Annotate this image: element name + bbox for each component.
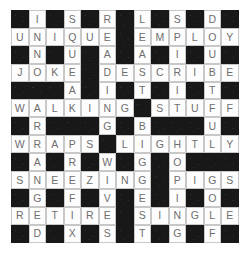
crossword-letter-cell[interactable]: U bbox=[11, 28, 29, 46]
crossword-letter-cell[interactable]: R bbox=[11, 207, 29, 225]
crossword-letter-cell[interactable]: I bbox=[151, 207, 169, 225]
crossword-letter-cell[interactable]: U bbox=[204, 46, 222, 64]
crossword-letter-cell[interactable]: W bbox=[11, 135, 29, 153]
crossword-letter-cell[interactable]: T bbox=[134, 82, 152, 100]
crossword-letter-cell[interactable]: F bbox=[221, 99, 239, 117]
crossword-letter-cell[interactable]: I bbox=[134, 135, 152, 153]
crossword-letter-cell[interactable]: T bbox=[46, 207, 64, 225]
crossword-letter-cell[interactable]: R bbox=[29, 117, 47, 135]
crossword-letter-cell[interactable]: I bbox=[169, 46, 187, 64]
crossword-letter-cell[interactable]: F bbox=[204, 99, 222, 117]
crossword-letter-cell[interactable]: O bbox=[29, 64, 47, 82]
crossword-letter-cell[interactable]: A bbox=[64, 82, 82, 100]
crossword-letter-cell[interactable]: Y bbox=[221, 135, 239, 153]
crossword-letter-cell[interactable]: I bbox=[99, 82, 117, 100]
crossword-letter-cell[interactable]: T bbox=[134, 225, 152, 243]
crossword-letter-cell[interactable]: G bbox=[169, 225, 187, 243]
crossword-letter-cell[interactable]: N bbox=[169, 207, 187, 225]
crossword-letter-cell[interactable]: I bbox=[186, 64, 204, 82]
crossword-letter-cell[interactable]: L bbox=[186, 28, 204, 46]
crossword-letter-cell[interactable]: U bbox=[186, 99, 204, 117]
crossword-letter-cell[interactable]: G bbox=[134, 171, 152, 189]
crossword-letter-cell[interactable]: U bbox=[204, 117, 222, 135]
crossword-letter-cell[interactable]: O bbox=[204, 189, 222, 207]
crossword-letter-cell[interactable]: S bbox=[151, 99, 169, 117]
crossword-letter-cell[interactable]: I bbox=[81, 99, 99, 117]
crossword-letter-cell[interactable]: Z bbox=[81, 171, 99, 189]
crossword-letter-cell[interactable]: S bbox=[221, 171, 239, 189]
crossword-letter-cell[interactable]: P bbox=[64, 135, 82, 153]
crossword-letter-cell[interactable]: U bbox=[64, 46, 82, 64]
crossword-letter-cell[interactable]: N bbox=[99, 99, 117, 117]
crossword-letter-cell[interactable]: G bbox=[151, 135, 169, 153]
crossword-grid[interactable]: ISRLSDUNIQUEEMPLOYNUAAIUJOKEDESCRIBEAITI… bbox=[11, 10, 239, 243]
crossword-letter-cell[interactable]: O bbox=[204, 28, 222, 46]
crossword-letter-cell[interactable]: X bbox=[64, 225, 82, 243]
crossword-letter-cell[interactable]: S bbox=[134, 207, 152, 225]
crossword-letter-cell[interactable]: F bbox=[204, 225, 222, 243]
crossword-letter-cell[interactable]: R bbox=[64, 153, 82, 171]
crossword-letter-cell[interactable]: R bbox=[81, 207, 99, 225]
crossword-letter-cell[interactable]: L bbox=[116, 135, 134, 153]
crossword-letter-cell[interactable]: N bbox=[29, 171, 47, 189]
crossword-letter-cell[interactable]: G bbox=[116, 99, 134, 117]
crossword-letter-cell[interactable]: N bbox=[29, 28, 47, 46]
crossword-letter-cell[interactable]: E bbox=[116, 64, 134, 82]
crossword-letter-cell[interactable]: I bbox=[99, 171, 117, 189]
crossword-letter-cell[interactable]: R bbox=[29, 135, 47, 153]
crossword-letter-cell[interactable]: Y bbox=[221, 28, 239, 46]
crossword-letter-cell[interactable]: J bbox=[11, 64, 29, 82]
crossword-letter-cell[interactable]: R bbox=[169, 64, 187, 82]
crossword-letter-cell[interactable]: E bbox=[99, 207, 117, 225]
crossword-letter-cell[interactable]: A bbox=[99, 46, 117, 64]
crossword-letter-cell[interactable]: C bbox=[151, 64, 169, 82]
crossword-letter-cell[interactable]: E bbox=[64, 64, 82, 82]
crossword-letter-cell[interactable]: A bbox=[46, 135, 64, 153]
crossword-letter-cell[interactable]: E bbox=[134, 189, 152, 207]
crossword-letter-cell[interactable]: F bbox=[64, 189, 82, 207]
crossword-letter-cell[interactable]: T bbox=[186, 135, 204, 153]
crossword-letter-cell[interactable]: S bbox=[169, 10, 187, 28]
crossword-letter-cell[interactable]: H bbox=[169, 135, 187, 153]
crossword-letter-cell[interactable]: I bbox=[46, 28, 64, 46]
crossword-letter-cell[interactable]: E bbox=[99, 28, 117, 46]
crossword-letter-cell[interactable]: I bbox=[169, 82, 187, 100]
crossword-letter-cell[interactable]: A bbox=[134, 46, 152, 64]
crossword-letter-cell[interactable]: K bbox=[64, 99, 82, 117]
crossword-letter-cell[interactable]: D bbox=[204, 10, 222, 28]
crossword-letter-cell[interactable]: G bbox=[29, 189, 47, 207]
crossword-letter-cell[interactable]: G bbox=[99, 117, 117, 135]
crossword-letter-cell[interactable]: E bbox=[221, 207, 239, 225]
crossword-letter-cell[interactable]: D bbox=[29, 225, 47, 243]
crossword-letter-cell[interactable]: T bbox=[169, 99, 187, 117]
crossword-letter-cell[interactable]: S bbox=[99, 225, 117, 243]
crossword-letter-cell[interactable]: V bbox=[99, 189, 117, 207]
crossword-letter-cell[interactable]: O bbox=[169, 153, 187, 171]
crossword-letter-cell[interactable]: I bbox=[169, 189, 187, 207]
crossword-letter-cell[interactable]: N bbox=[116, 171, 134, 189]
crossword-letter-cell[interactable]: G bbox=[204, 171, 222, 189]
crossword-letter-cell[interactable]: B bbox=[134, 117, 152, 135]
crossword-letter-cell[interactable]: L bbox=[204, 207, 222, 225]
crossword-letter-cell[interactable]: W bbox=[99, 153, 117, 171]
crossword-letter-cell[interactable]: L bbox=[46, 99, 64, 117]
crossword-letter-cell[interactable]: U bbox=[81, 28, 99, 46]
crossword-letter-cell[interactable]: I bbox=[64, 207, 82, 225]
crossword-letter-cell[interactable]: P bbox=[169, 28, 187, 46]
crossword-letter-cell[interactable]: S bbox=[134, 64, 152, 82]
crossword-letter-cell[interactable]: P bbox=[169, 171, 187, 189]
crossword-letter-cell[interactable]: B bbox=[204, 64, 222, 82]
crossword-letter-cell[interactable]: N bbox=[29, 46, 47, 64]
crossword-letter-cell[interactable]: E bbox=[29, 207, 47, 225]
crossword-letter-cell[interactable]: A bbox=[29, 153, 47, 171]
crossword-letter-cell[interactable]: E bbox=[46, 171, 64, 189]
crossword-letter-cell[interactable]: R bbox=[99, 10, 117, 28]
crossword-letter-cell[interactable]: I bbox=[186, 171, 204, 189]
crossword-letter-cell[interactable]: S bbox=[11, 171, 29, 189]
crossword-letter-cell[interactable]: Q bbox=[64, 28, 82, 46]
crossword-letter-cell[interactable]: I bbox=[29, 10, 47, 28]
crossword-letter-cell[interactable]: L bbox=[204, 135, 222, 153]
crossword-letter-cell[interactable]: S bbox=[81, 135, 99, 153]
crossword-letter-cell[interactable]: M bbox=[151, 28, 169, 46]
crossword-letter-cell[interactable]: E bbox=[64, 171, 82, 189]
